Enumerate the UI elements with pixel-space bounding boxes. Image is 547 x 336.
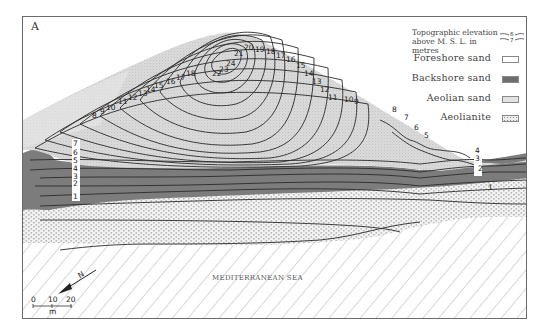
svg-text:19: 19	[255, 45, 265, 54]
svg-text:8: 8	[392, 105, 397, 114]
svg-text:10: 10	[106, 103, 116, 112]
legend-item-aeolianite: Aeolianite	[400, 111, 527, 125]
svg-text:16: 16	[166, 77, 176, 86]
svg-text:8: 8	[92, 111, 97, 120]
svg-text:7: 7	[73, 139, 78, 148]
svg-text:3: 3	[475, 154, 480, 163]
sea-label: MEDITERRANEAN SEA	[212, 274, 303, 282]
legend-item-backshore-sand: Backshore sand	[400, 72, 527, 86]
svg-text:12: 12	[128, 93, 138, 102]
swatch-backshore-sand	[502, 76, 519, 83]
legend: Topographic elevation above M. S. L. in …	[400, 28, 527, 55]
svg-text:11: 11	[328, 93, 338, 102]
svg-text:9: 9	[100, 107, 105, 116]
svg-text:1: 1	[73, 192, 78, 201]
svg-text:20: 20	[66, 295, 76, 304]
svg-text:m: m	[49, 307, 56, 316]
swatch-aeolian-sand	[502, 96, 519, 103]
svg-text:5: 5	[424, 131, 429, 140]
svg-text:2: 2	[478, 164, 483, 173]
svg-text:10: 10	[344, 95, 354, 104]
svg-text:1: 1	[488, 183, 493, 192]
swatch-foreshore-sand	[502, 56, 519, 63]
svg-text:2: 2	[73, 179, 78, 188]
svg-text:17: 17	[176, 73, 186, 82]
legend-topographic: Topographic elevation above M. S. L. in …	[412, 28, 502, 55]
svg-text:20: 20	[244, 43, 254, 52]
svg-text:15: 15	[154, 81, 164, 90]
legend-item-aeolian-sand: Aeolian sand	[400, 92, 527, 106]
svg-text:0: 0	[31, 295, 36, 304]
panel-label: A	[31, 20, 39, 33]
svg-text:18: 18	[266, 47, 276, 56]
svg-text:7: 7	[510, 37, 514, 43]
svg-text:9: 9	[354, 97, 359, 106]
svg-text:11: 11	[118, 97, 128, 106]
contour-symbol-icon: 6 7	[500, 30, 524, 44]
svg-text:18: 18	[186, 69, 196, 78]
swatch-aeolianite	[502, 115, 519, 122]
svg-text:17: 17	[276, 51, 286, 60]
svg-text:16: 16	[286, 55, 296, 64]
svg-text:10: 10	[48, 295, 58, 304]
legend-item-foreshore-sand: Foreshore sand	[400, 52, 527, 66]
svg-text:21: 21	[234, 49, 244, 58]
svg-text:22: 22	[212, 69, 222, 78]
